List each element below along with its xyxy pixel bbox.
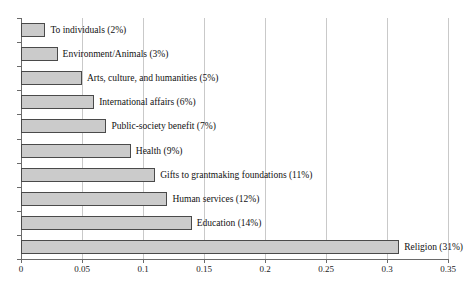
- bar-row: Gifts to grantmaking foundations (11%): [21, 168, 448, 182]
- bar-data-label: To individuals (2%): [45, 25, 126, 36]
- bar-data-label: Health (9%): [131, 145, 183, 156]
- bar: [21, 119, 106, 133]
- y-tick-mark: [17, 235, 21, 236]
- gridline: [448, 18, 449, 259]
- bar-row: Arts, culture, and humanities (5%): [21, 71, 448, 85]
- bar-chart: To individuals (2%)Environment/Animals (…: [0, 0, 473, 289]
- x-tick-mark: [448, 259, 449, 263]
- bar-row: International affairs (6%): [21, 95, 448, 109]
- plot-area: To individuals (2%)Environment/Animals (…: [21, 18, 448, 259]
- y-tick-mark: [17, 42, 21, 43]
- bar: [21, 144, 131, 158]
- x-tick-label: 0.2: [259, 264, 270, 275]
- bar-row: Human services (12%): [21, 192, 448, 206]
- y-tick-mark: [17, 114, 21, 115]
- bar-row: Health (9%): [21, 144, 448, 158]
- x-tick-label: 0: [19, 264, 24, 275]
- bar-row: To individuals (2%): [21, 23, 448, 37]
- x-axis-line: [21, 259, 449, 260]
- y-tick-mark: [17, 211, 21, 212]
- x-tick-mark: [21, 259, 22, 263]
- y-tick-mark: [17, 187, 21, 188]
- bar: [21, 216, 192, 230]
- bar-row: Public-society benefit (7%): [21, 119, 448, 133]
- y-tick-mark: [17, 90, 21, 91]
- bar: [21, 95, 94, 109]
- bar-row: Religion (31%): [21, 240, 448, 254]
- x-tick-mark: [265, 259, 266, 263]
- x-tick-mark: [387, 259, 388, 263]
- bar-data-label: International affairs (6%): [94, 97, 195, 108]
- bar: [21, 47, 58, 61]
- bar: [21, 23, 45, 37]
- bar-row: Environment/Animals (3%): [21, 47, 448, 61]
- x-tick-label: 0.3: [381, 264, 392, 275]
- x-tick-label: 0.1: [137, 264, 148, 275]
- bar: [21, 192, 167, 206]
- bar-data-label: Religion (31%): [399, 241, 463, 252]
- bar-data-label: Education (14%): [192, 217, 262, 228]
- x-tick-label: 0.25: [318, 264, 334, 275]
- x-tick-mark: [82, 259, 83, 263]
- x-tick-label: 0.35: [440, 264, 456, 275]
- bar: [21, 168, 155, 182]
- bar: [21, 71, 82, 85]
- bar-data-label: Arts, culture, and humanities (5%): [82, 73, 218, 84]
- bar-data-label: Human services (12%): [167, 193, 259, 204]
- y-tick-mark: [17, 259, 21, 260]
- x-tick-label: 0.15: [196, 264, 212, 275]
- bar-row: Education (14%): [21, 216, 448, 230]
- x-tick-mark: [143, 259, 144, 263]
- x-tick-mark: [204, 259, 205, 263]
- bar-data-label: Environment/Animals (3%): [58, 49, 169, 60]
- bar-data-label: Gifts to grantmaking foundations (11%): [155, 169, 312, 180]
- bar-data-label: Public-society benefit (7%): [106, 121, 215, 132]
- bar: [21, 240, 399, 254]
- y-tick-mark: [17, 18, 21, 19]
- y-tick-mark: [17, 139, 21, 140]
- x-tick-mark: [326, 259, 327, 263]
- y-tick-mark: [17, 163, 21, 164]
- x-tick-label: 0.05: [74, 264, 90, 275]
- y-tick-mark: [17, 66, 21, 67]
